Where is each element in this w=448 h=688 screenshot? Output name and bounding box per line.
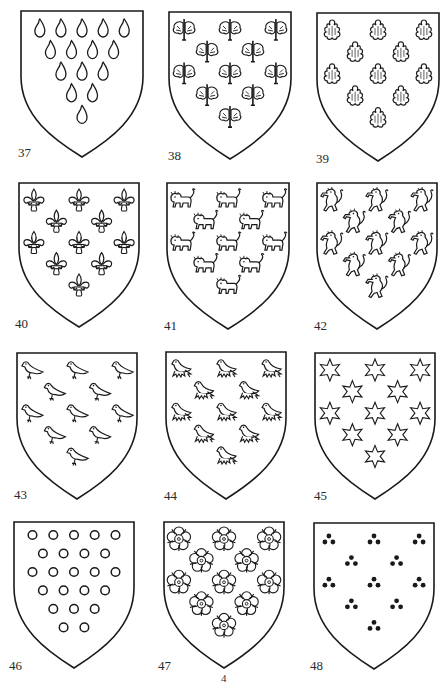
shield-figure [16,352,146,522]
figure-number: 40 [15,316,28,332]
shield-figure [313,522,443,688]
figure-number: 43 [14,487,27,503]
figure-number: 37 [18,145,31,161]
figure-number: 38 [168,148,181,164]
shield-outline-icon [13,521,135,669]
shield-outline-icon [163,521,285,669]
shield-outline-icon [314,352,436,500]
heraldry-plate: 373839404142434445464748 [0,0,448,688]
shield-outline-icon [316,182,438,330]
figure-number: 48 [310,658,323,674]
shield-figure [13,521,143,688]
shield-outline-icon [20,10,144,158]
shield-figure [18,182,148,352]
figure-number: 41 [164,318,177,334]
figure-number: 42 [314,318,327,334]
shield-figure [166,182,296,352]
figure-number: 39 [316,151,329,167]
shield-figure [165,351,295,521]
page-number: 4 [221,672,227,684]
figure-number: 46 [9,658,22,674]
shield-figure [163,521,293,688]
shield-figure [20,10,150,180]
shield-outline-icon [18,182,140,328]
shield-outline-icon [16,352,138,500]
shield-outline-icon [166,182,290,330]
shield-figure [316,182,446,352]
shield-outline-icon [316,12,440,162]
figure-number: 44 [164,488,177,504]
shield-figure [168,11,298,181]
shield-outline-icon [165,351,287,500]
shield-outline-icon [313,522,435,670]
figure-number: 47 [158,658,171,674]
shield-figure [316,12,446,182]
shield-outline-icon [168,11,292,160]
figure-number: 45 [314,488,327,504]
shield-figure [314,352,444,522]
